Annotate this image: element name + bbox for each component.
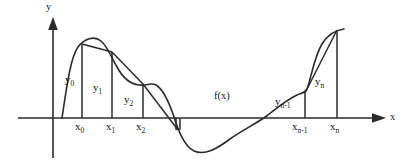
function-label: f(x): [214, 91, 230, 102]
ordinate-lines: [82, 30, 337, 130]
x-axis-label: x: [390, 112, 395, 123]
ordinate-label-y0: y0: [65, 74, 74, 88]
ordinate-label-y1: y1: [93, 82, 102, 96]
abscissa-label-xn1: xn-1: [292, 121, 308, 135]
ordinate-label-yn: yn: [315, 76, 324, 90]
y-axis-label: y: [46, 2, 51, 13]
trapezoidal-rule-figure: y x f(x) y0 y1 y2 yn-1 yn x0 x1 x2 xn-1 …: [0, 0, 407, 164]
trapezoid-chords: [82, 30, 337, 130]
ordinate-label-yn1: yn-1: [275, 96, 291, 110]
ordinate-label-y2: y2: [124, 94, 133, 108]
abscissa-label-xn: xn: [330, 121, 339, 135]
abscissa-label-x0: x0: [75, 121, 84, 135]
y-axis-arrowhead: [48, 17, 58, 30]
chord-2-3: [143, 84, 178, 130]
abscissa-label-x1: x1: [106, 121, 115, 135]
abscissa-label-x2: x2: [136, 121, 145, 135]
figure-canvas: [0, 0, 407, 164]
x-axis-arrowhead: [372, 113, 386, 123]
y-axis: [48, 17, 58, 158]
